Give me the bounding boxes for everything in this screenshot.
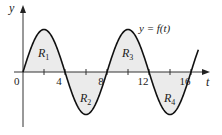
- x-tick-label: 0: [14, 75, 20, 87]
- y-axis-label: y: [8, 1, 15, 15]
- x-tick-label: 16: [180, 75, 192, 87]
- chart: 0481216 R1R2R3R4 y t y = f(t): [0, 0, 222, 135]
- curve-label: y = f(t): [138, 22, 171, 35]
- x-tick-label: 8: [98, 75, 104, 87]
- x-tick-label: 12: [138, 75, 149, 87]
- y-axis-arrow-icon: [20, 5, 26, 13]
- x-axis-label: t: [206, 75, 210, 89]
- x-tick-label: 4: [56, 75, 62, 87]
